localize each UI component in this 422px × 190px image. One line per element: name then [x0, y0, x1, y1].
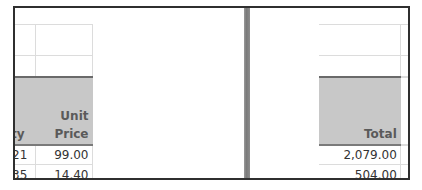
table-row: 504.00 — [319, 165, 408, 181]
header-unit-price-line2: Price — [39, 125, 89, 143]
table-row: 21 99.00 — [13, 145, 92, 165]
cell-unit-price[interactable]: 14.40 — [35, 165, 92, 181]
right-pane-grid: Total 2,079.00 504.00 — [319, 24, 408, 180]
header-row: Total — [319, 77, 408, 145]
blank-row — [319, 25, 408, 56]
cell[interactable] — [319, 56, 400, 77]
table-row: 35 14.40 — [13, 165, 92, 181]
header-row: ty Unit Price — [13, 77, 92, 145]
cell[interactable] — [35, 25, 92, 56]
cell[interactable] — [400, 25, 408, 56]
cell-total[interactable]: 2,079.00 — [319, 145, 400, 165]
cell[interactable] — [400, 77, 408, 145]
cell[interactable] — [13, 56, 35, 77]
header-total-line2: Total — [322, 125, 397, 143]
blank-row — [319, 56, 408, 77]
left-pane: ty Unit Price 21 99.00 35 14.40 — [15, 8, 244, 178]
left-pane-grid: ty Unit Price 21 99.00 35 14.40 — [13, 24, 93, 180]
cell[interactable] — [400, 56, 408, 77]
table-row: 2,079.00 — [319, 145, 408, 165]
cell[interactable] — [400, 145, 408, 165]
cell[interactable] — [319, 25, 400, 56]
header-unit-price-line1: Unit — [39, 107, 89, 125]
blank-row — [13, 25, 92, 56]
right-pane: Total 2,079.00 504.00 — [250, 8, 408, 178]
header-cell-unit-price[interactable]: Unit Price — [35, 77, 92, 145]
cell[interactable] — [400, 165, 408, 181]
cell[interactable] — [13, 25, 35, 56]
cell-total[interactable]: 504.00 — [319, 165, 400, 181]
header-cell-total[interactable]: Total — [319, 77, 400, 145]
blank-row — [13, 56, 92, 77]
cell[interactable] — [35, 56, 92, 77]
spreadsheet-window: ty Unit Price 21 99.00 35 14.40 — [13, 6, 410, 180]
header-qty-line2: ty — [13, 125, 32, 143]
header-cell-qty[interactable]: ty — [13, 77, 35, 145]
cell-qty[interactable]: 35 — [13, 165, 35, 181]
cell-unit-price[interactable]: 99.00 — [35, 145, 92, 165]
cell-qty[interactable]: 21 — [13, 145, 35, 165]
